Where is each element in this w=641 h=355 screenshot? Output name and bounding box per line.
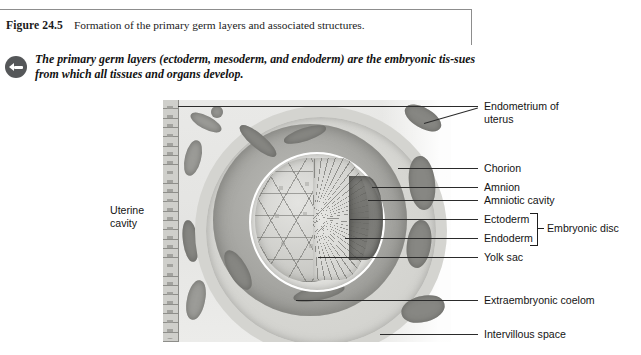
leader-endometrium-top [178,106,478,107]
arrow-bullet-icon [5,56,27,78]
embryonic-disc-bracket [530,213,538,246]
label-yolk-sac: Yolk sac [484,251,523,264]
embryonic-disc-bracket-tick [537,228,544,229]
key-point-text: The primary germ layers (ectoderm, mesod… [35,52,479,82]
label-extraembryonic-coelom: Extraembryonic coelom [484,294,595,307]
figure-caption-text: Formation of the primary germ layers and… [74,19,365,31]
label-ectoderm: Ectoderm [484,213,529,226]
leader-chorion [398,168,478,169]
leader-ectoderm [350,219,478,220]
leader-endoderm [345,238,478,239]
label-endoderm: Endoderm [484,232,533,245]
leader-intervillous-space [380,334,478,335]
embryo-illustration [163,100,451,342]
label-uterine-cavity: Uterine cavity [110,204,144,229]
vessel [211,106,223,118]
figure-caption: Figure 24.5Formation of the primary germ… [6,19,456,32]
label-amnion: Amnion [484,181,520,194]
leader-extraembryonic-coelom [296,300,478,301]
amniotic-cavity-region [349,176,383,260]
endometrial-epithelium-column [163,100,179,342]
label-embryonic-disc: Embryonic disc [547,222,619,235]
figure-number: Figure 24.5 [6,19,63,32]
leader-yolk-sac [318,257,478,258]
leader-amnion [372,187,478,188]
label-chorion: Chorion [484,162,521,175]
leader-amniotic-cavity [368,200,478,201]
label-amniotic-cavity: Amniotic cavity [484,194,555,207]
label-intervillous-space: Intervillous space [484,328,566,341]
label-endometrium-of-uterus: Endometrium of uterus [484,100,559,125]
